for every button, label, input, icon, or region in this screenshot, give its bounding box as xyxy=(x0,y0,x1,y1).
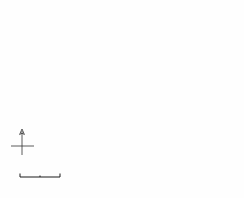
site-plan-figure xyxy=(0,0,244,198)
plan-canvas xyxy=(0,0,244,198)
plan-background xyxy=(0,0,244,198)
